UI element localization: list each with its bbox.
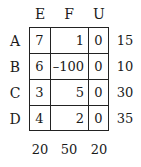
grid-divider [29, 79, 109, 80]
row-header-c: C [8, 85, 22, 101]
column-header-u: U [88, 6, 110, 22]
row-header-b: B [8, 59, 22, 75]
table-cell: 4 [29, 111, 50, 127]
table-cell: 7 [29, 33, 50, 49]
table-cell: 0 [88, 111, 109, 127]
supply-value: 10 [112, 59, 138, 75]
row-header-d: D [8, 111, 22, 127]
table-cell: 0 [88, 59, 109, 75]
table-cell: 5 [50, 85, 84, 101]
column-header-f: F [58, 6, 80, 22]
demand-value: 20 [84, 142, 114, 158]
table-cell: 0 [88, 33, 109, 49]
supply-value: 35 [112, 111, 138, 127]
grid-divider [29, 105, 109, 106]
supply-value: 15 [112, 33, 138, 49]
supply-value: 30 [112, 85, 138, 101]
row-header-a: A [8, 33, 22, 49]
demand-value: 20 [25, 142, 55, 158]
column-header-e: E [29, 6, 51, 22]
table-cell: –100 [50, 59, 84, 75]
table-cell: 6 [29, 59, 50, 75]
table-cell: 1 [50, 33, 84, 49]
grid-divider [29, 53, 109, 54]
table-cell: 0 [88, 85, 109, 101]
table-cell: 3 [29, 85, 50, 101]
demand-value: 50 [54, 142, 84, 158]
table-cell: 2 [50, 111, 84, 127]
